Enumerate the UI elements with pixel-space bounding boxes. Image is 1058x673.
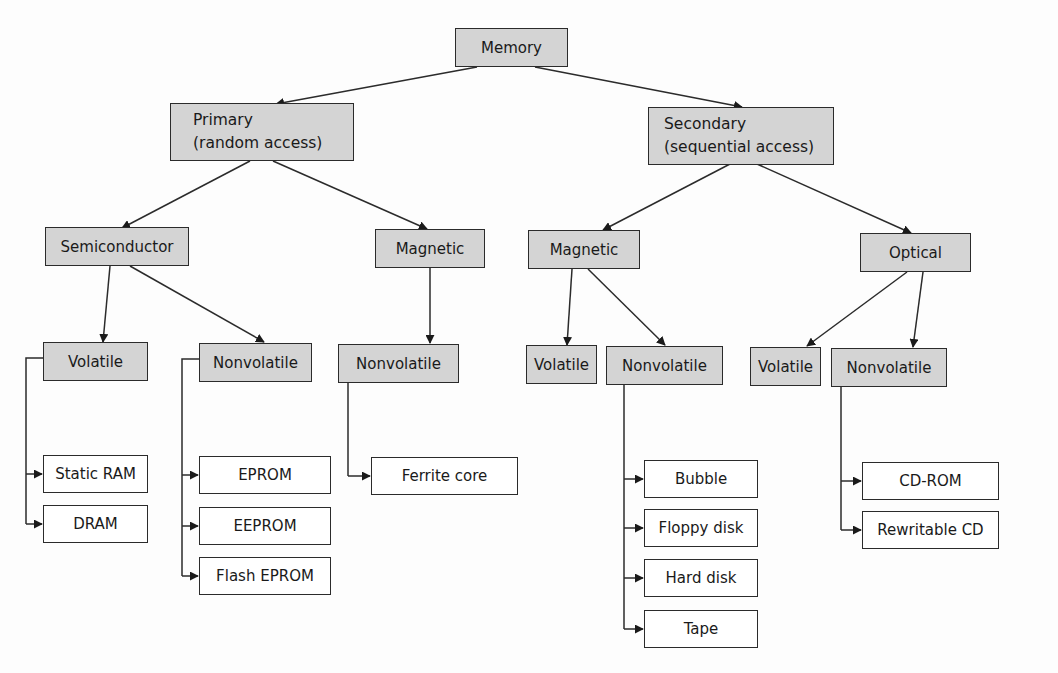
node-label: Magnetic bbox=[396, 240, 465, 258]
node-optical-nonvolatile: Nonvolatile bbox=[831, 348, 947, 387]
leaf-hard-disk: Hard disk bbox=[644, 559, 758, 597]
node-label: Nonvolatile bbox=[356, 355, 441, 373]
node-label: Magnetic bbox=[550, 241, 619, 259]
leaf-eeprom: EEPROM bbox=[199, 507, 331, 545]
leaf-flash-eprom: Flash EPROM bbox=[199, 557, 331, 595]
node-secondary: Secondary (sequential access) bbox=[648, 107, 834, 165]
node-label: Volatile bbox=[68, 353, 123, 371]
leaf-label: DRAM bbox=[73, 515, 118, 533]
leaf-ferrite-core: Ferrite core bbox=[371, 457, 518, 495]
leaf-label: Rewritable CD bbox=[877, 521, 983, 539]
memory-hierarchy-diagram: Memory Primary (random access) Secondary… bbox=[0, 0, 1058, 673]
node-secondary-magnetic-volatile: Volatile bbox=[526, 345, 597, 384]
leaf-tape: Tape bbox=[644, 610, 758, 648]
leaf-label: Flash EPROM bbox=[216, 567, 314, 585]
leaf-dram: DRAM bbox=[43, 505, 148, 543]
node-semiconductor-volatile: Volatile bbox=[43, 342, 148, 381]
node-semiconductor-nonvolatile: Nonvolatile bbox=[199, 343, 312, 382]
leaf-label: Static RAM bbox=[55, 465, 136, 483]
leaf-label: Bubble bbox=[675, 470, 727, 488]
node-label-line2: (random access) bbox=[193, 132, 322, 155]
leaf-label: EPROM bbox=[238, 466, 292, 484]
node-label: Nonvolatile bbox=[847, 359, 932, 377]
leaf-cd-rom: CD-ROM bbox=[862, 462, 999, 500]
leaf-rewritable-cd: Rewritable CD bbox=[862, 511, 999, 549]
node-label: Semiconductor bbox=[61, 238, 174, 256]
node-memory: Memory bbox=[455, 28, 568, 67]
node-label: Optical bbox=[889, 244, 942, 262]
leaf-label: Floppy disk bbox=[659, 519, 744, 537]
leaf-label: CD-ROM bbox=[899, 472, 962, 490]
node-primary-magnetic: Magnetic bbox=[375, 229, 485, 268]
connector-lines bbox=[0, 0, 1058, 673]
leaf-bubble: Bubble bbox=[644, 460, 758, 498]
node-label: Volatile bbox=[758, 358, 813, 376]
leaf-label: Ferrite core bbox=[402, 467, 488, 485]
node-label-line1: Primary bbox=[193, 109, 253, 132]
node-secondary-magnetic-nonvolatile: Nonvolatile bbox=[606, 346, 723, 385]
node-label-line2: (sequential access) bbox=[664, 136, 814, 159]
leaf-label: EEPROM bbox=[233, 517, 296, 535]
leaf-static-ram: Static RAM bbox=[43, 455, 148, 493]
node-label: Nonvolatile bbox=[622, 357, 707, 375]
leaf-eprom: EPROM bbox=[199, 456, 331, 494]
node-label: Memory bbox=[481, 39, 542, 57]
node-label-line1: Secondary bbox=[664, 113, 746, 136]
node-label: Volatile bbox=[534, 356, 589, 374]
node-secondary-magnetic: Magnetic bbox=[528, 230, 640, 269]
node-optical: Optical bbox=[860, 233, 971, 272]
node-label: Nonvolatile bbox=[213, 354, 298, 372]
node-primary-magnetic-nonvolatile: Nonvolatile bbox=[338, 344, 459, 383]
node-primary: Primary (random access) bbox=[170, 103, 354, 161]
leaf-label: Tape bbox=[684, 620, 719, 638]
leaf-floppy-disk: Floppy disk bbox=[644, 509, 758, 547]
leaf-label: Hard disk bbox=[666, 569, 737, 587]
node-optical-volatile: Volatile bbox=[750, 347, 821, 386]
node-semiconductor: Semiconductor bbox=[45, 227, 189, 266]
